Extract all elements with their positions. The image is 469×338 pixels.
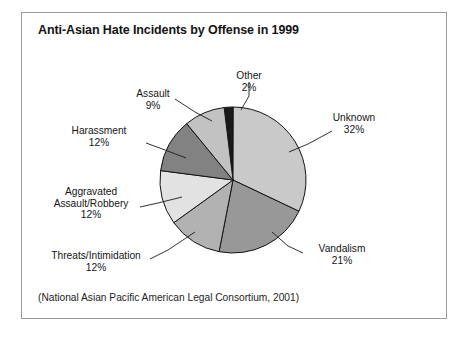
pie-label-vandalism-name: Vandalism [300,243,384,255]
pie-label-harassment-pct: 12% [56,137,142,149]
pie-chart-figure: Anti-Asian Hate Incidents by Offense in … [0,0,469,338]
leader-line-threats [150,232,195,259]
pie-slice-group [160,107,306,253]
pie-label-harassment-name: Harassment [56,125,142,137]
pie-label-assault-name: Assault [122,88,184,100]
pie-chart-graphic [0,0,469,338]
pie-label-harassment: Harassment 12% [56,125,142,148]
pie-label-aggravated-name-line1: Aggravated [44,186,138,198]
pie-label-threats-pct: 12% [43,262,149,274]
pie-label-aggravated-assault-robbery: Aggravated Assault/Robbery 12% [44,186,138,221]
pie-label-assault-pct: 9% [122,100,184,112]
pie-label-threats-name: Threats/Intimidation [43,250,149,262]
pie-label-vandalism-pct: 21% [300,255,384,267]
pie-label-other-pct: 2% [213,82,285,94]
pie-label-unknown-name: Unknown [313,112,395,124]
pie-label-vandalism: Vandalism 21% [300,243,384,266]
pie-label-other-name: Other [213,70,285,82]
pie-label-threats-intimidation: Threats/Intimidation 12% [43,250,149,273]
source-note: (National Asian Pacific American Legal C… [38,292,299,303]
pie-label-assault: Assault 9% [122,88,184,111]
pie-label-other: Other 2% [213,70,285,93]
pie-label-aggravated-pct: 12% [44,209,138,221]
pie-label-unknown-pct: 32% [313,124,395,136]
pie-label-unknown: Unknown 32% [313,112,395,135]
pie-label-aggravated-name-line2: Assault/Robbery [44,198,138,210]
